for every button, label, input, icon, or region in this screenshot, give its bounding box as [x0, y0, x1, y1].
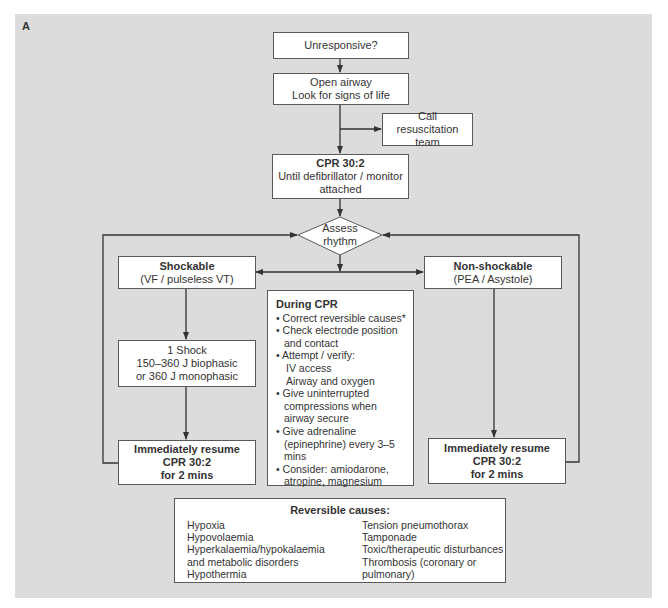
cause-item: Hypoxia	[187, 519, 325, 531]
cause-item: Tamponade	[362, 531, 503, 543]
during-cpr-subitem: IV access	[276, 362, 407, 375]
assess-rhythm-line1: Assess	[310, 222, 370, 235]
cpr-initial-title: CPR 30:2	[316, 157, 364, 170]
resume-left-line3: for 2 mins	[161, 469, 214, 482]
call-team-box: Call resuscitation team	[382, 113, 473, 146]
cause-item: Hypovolaemia	[187, 531, 325, 543]
during-cpr-subitem: Airway and oxygen	[276, 375, 407, 388]
during-cpr-item: • Check electrode position and contact	[276, 324, 407, 349]
cause-item: Hyperkalaemia/hypokalaemia	[187, 543, 325, 555]
resume-right-line2: CPR 30:2	[473, 455, 521, 468]
during-cpr-item: • Consider: amiodarone, atropine, magnes…	[276, 463, 407, 488]
during-cpr-item: • Attempt / verify:	[276, 349, 407, 362]
during-cpr-title: During CPR	[276, 298, 407, 311]
reversible-causes-right-column: Tension pneumothorax Tamponade Toxic/the…	[362, 519, 503, 580]
cause-item: Hypothermia	[187, 568, 325, 580]
call-team-line2: resuscitation team	[383, 123, 472, 149]
cause-item: Toxic/therapeutic disturbances	[362, 543, 503, 555]
open-airway-line2: Look for signs of life	[292, 89, 390, 102]
unresponsive-text: Unresponsive?	[304, 39, 377, 52]
resume-left-line2: CPR 30:2	[163, 456, 211, 469]
assess-rhythm-line2: rhythm	[310, 235, 370, 248]
non-shockable-subtitle: (PEA / Asystole)	[454, 273, 533, 286]
open-airway-line1: Open airway	[310, 76, 372, 89]
shockable-title: Shockable	[159, 260, 214, 273]
cpr-initial-line2: attached	[319, 183, 361, 196]
assess-rhythm-label: Assess rhythm	[310, 222, 370, 248]
shockable-box: Shockable (VF / pulseless VT)	[118, 256, 256, 289]
cause-item: Thrombosis (coronary or	[362, 556, 503, 568]
during-cpr-item: • Give uninterrupted compressions when a…	[276, 387, 407, 425]
resume-right-line1: Immediately resume	[444, 442, 550, 455]
open-airway-box: Open airway Look for signs of life	[273, 73, 409, 105]
cpr-initial-box: CPR 30:2 Until defibrillator / monitor a…	[272, 154, 409, 199]
resume-right-line3: for 2 mins	[471, 468, 524, 481]
reversible-causes-title: Reversible causes:	[175, 504, 505, 516]
reversible-causes-box: Reversible causes: Hypoxia Hypovolaemia …	[174, 498, 506, 583]
resume-left-box: Immediately resume CPR 30:2 for 2 mins	[118, 440, 256, 485]
shockable-subtitle: (VF / pulseless VT)	[140, 273, 234, 286]
call-team-line1: Call	[418, 110, 437, 123]
resume-left-line1: Immediately resume	[134, 443, 240, 456]
resume-right-box: Immediately resume CPR 30:2 for 2 mins	[428, 438, 566, 484]
cause-item: pulmonary)	[362, 568, 503, 580]
unresponsive-box: Unresponsive?	[273, 32, 409, 59]
cpr-initial-line1: Until defibrillator / monitor	[278, 170, 403, 183]
during-cpr-item: • Give adrenaline (epinephrine) every 3–…	[276, 425, 407, 463]
during-cpr-item: • Correct reversible causes*	[276, 312, 407, 325]
during-cpr-box: During CPR • Correct reversible causes* …	[267, 290, 414, 486]
shock-box: 1 Shock 150–360 J biophasic or 360 J mon…	[118, 340, 256, 387]
non-shockable-box: Non-shockable (PEA / Asystole)	[424, 256, 562, 289]
non-shockable-title: Non-shockable	[454, 260, 533, 273]
shock-line3: or 360 J monophasic	[136, 370, 238, 383]
shock-line2: 150–360 J biophasic	[137, 357, 238, 370]
cause-item: Tension pneumothorax	[362, 519, 503, 531]
shock-line1: 1 Shock	[167, 344, 207, 357]
cause-item: and metabolic disorders	[187, 556, 325, 568]
reversible-causes-left-column: Hypoxia Hypovolaemia Hyperkalaemia/hypok…	[187, 519, 325, 580]
